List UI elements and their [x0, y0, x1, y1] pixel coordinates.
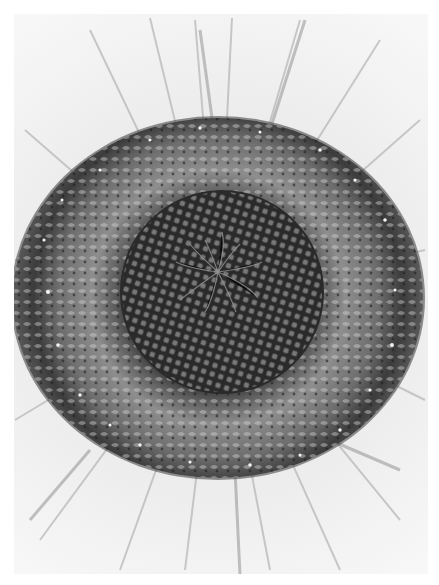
sunflower-illustration	[14, 14, 428, 574]
photo-frame	[14, 14, 428, 574]
sunflower-photograph	[0, 0, 439, 585]
caption-sliver	[0, 580, 439, 585]
